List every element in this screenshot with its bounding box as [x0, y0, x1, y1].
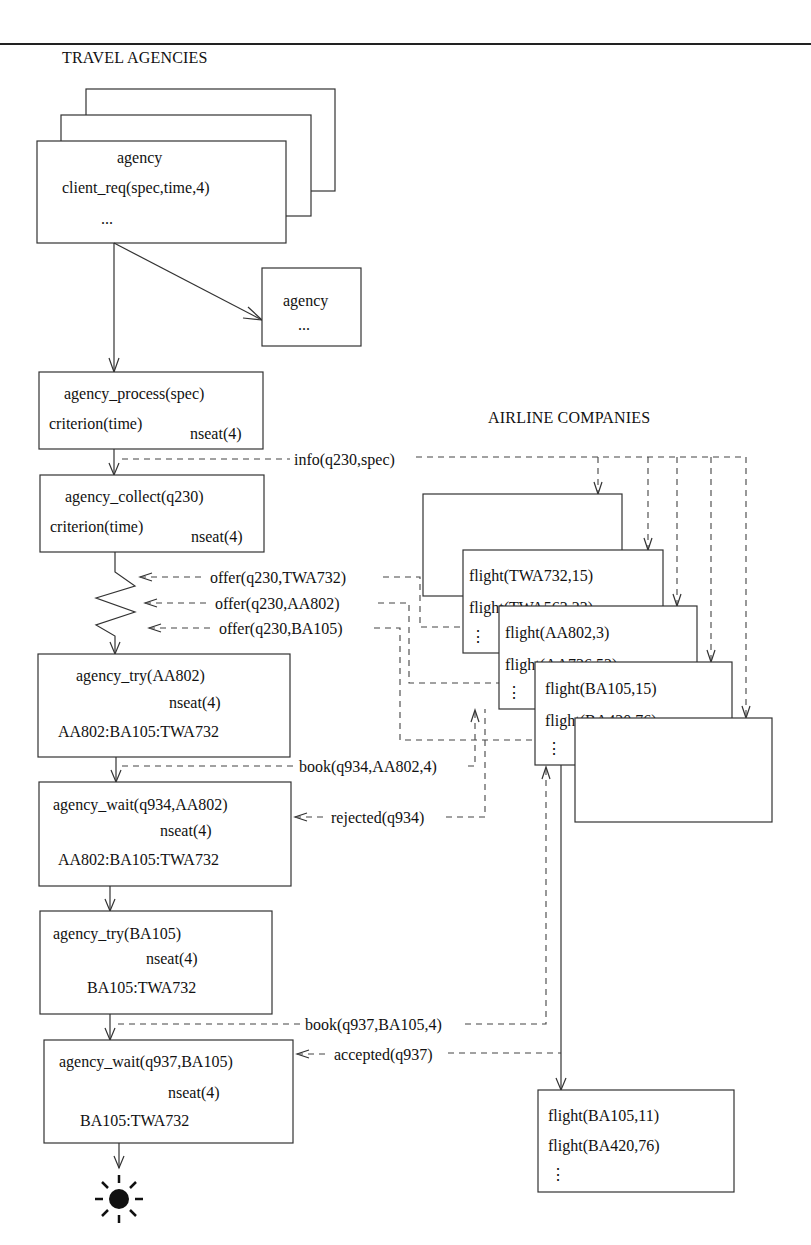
- state-nseat: nseat(4): [168, 1084, 220, 1102]
- state-agency-try-ba105: agency_try(BA105) nseat(4) BA105:TWA732: [40, 911, 272, 1014]
- state-nseat: nseat(4): [146, 950, 198, 968]
- book-ba-line-to-airline: [465, 767, 546, 1024]
- agency-ellipsis: ...: [101, 210, 113, 227]
- state-flight-list: AA802:BA105:TWA732: [58, 851, 219, 868]
- msg-offer-ba: offer(q230,BA105): [219, 620, 343, 638]
- state-agency-collect: agency_collect(q230) criterion(time) nse…: [40, 475, 264, 552]
- state-nseat: nseat(4): [169, 694, 221, 712]
- flight-entry: flight(BA105,15): [545, 680, 657, 698]
- state-name: agency_try(AA802): [76, 667, 205, 685]
- state-nseat: nseat(4): [160, 822, 212, 840]
- state-criterion: criterion(time): [49, 415, 142, 433]
- msg-offer-twa: offer(q230,TWA732): [210, 569, 346, 587]
- book-aa-line-to-airline: [468, 710, 475, 766]
- flight-entry: flight(TWA732,15): [469, 567, 593, 585]
- airline-box-ba-after: flight(BA105,11) flight(BA420,76) ⋮: [538, 1090, 734, 1192]
- flight-ellipsis: ⋮: [506, 684, 522, 701]
- state-name: agency_try(BA105): [53, 925, 181, 943]
- state-agency-process: agency_process(spec) criterion(time) nse…: [39, 372, 263, 449]
- state-nseat: nseat(4): [191, 528, 243, 546]
- agency-stack: agency client_req(spec,time,4) ...: [37, 89, 335, 243]
- msg-book-aa: book(q934,AA802,4): [299, 758, 437, 776]
- msg-rejected: rejected(q934): [331, 809, 424, 827]
- flight-entry: flight(BA105,11): [548, 1107, 659, 1125]
- flight-ellipsis: ⋮: [550, 1166, 566, 1183]
- diagram-canvas: TRAVEL AGENCIES AIRLINE COMPANIES agency…: [0, 0, 811, 1245]
- state-agency-try-aa802: agency_try(AA802) nseat(4) AA802:BA105:T…: [38, 654, 290, 757]
- agency-title: agency: [117, 149, 162, 167]
- state-flight-list: AA802:BA105:TWA732: [58, 723, 219, 740]
- heading-airline-companies: AIRLINE COMPANIES: [488, 409, 650, 426]
- spawn-arrow-line: [114, 243, 262, 320]
- flight-entry: flight(BA420,76): [548, 1137, 660, 1155]
- flight-ellipsis: ⋮: [546, 740, 562, 757]
- state-flight-list: BA105:TWA732: [87, 979, 196, 996]
- flight-ellipsis: ⋮: [470, 628, 486, 645]
- agency-small: agency ...: [262, 268, 361, 346]
- agency-small-ellipsis: ...: [298, 316, 310, 333]
- airline-box-front-empty: [575, 718, 772, 822]
- state-agency-wait-q934: agency_wait(q934,AA802) nseat(4) AA802:B…: [39, 782, 291, 886]
- state-name: agency_process(spec): [64, 385, 204, 403]
- state-nseat: nseat(4): [190, 425, 242, 443]
- msg-accepted: accepted(q937): [334, 1046, 433, 1064]
- terminal-sun-icon: [95, 1175, 143, 1223]
- state-name: agency_wait(q937,BA105): [59, 1053, 233, 1071]
- flight-entry: flight(AA802,3): [505, 624, 609, 642]
- state-name: agency_wait(q934,AA802): [53, 796, 228, 814]
- airline-stack: flight(TWA732,15) flight(TWA563,23) ⋮ fl…: [423, 494, 772, 822]
- heading-travel-agencies: TRAVEL AGENCIES: [62, 49, 208, 66]
- state-criterion: criterion(time): [50, 518, 143, 536]
- agency-client-req: client_req(spec,time,4): [62, 179, 210, 197]
- rejected-line-from-airline: [446, 709, 485, 817]
- msg-offer-aa: offer(q230,AA802): [215, 595, 340, 613]
- arrow-head-icon: [243, 307, 262, 320]
- state-agency-wait-q937: agency_wait(q937,BA105) nseat(4) BA105:T…: [44, 1040, 293, 1143]
- agency-small-title: agency: [283, 292, 328, 310]
- state-flight-list: BA105:TWA732: [80, 1112, 189, 1129]
- waiting-zigzag: [96, 552, 135, 654]
- msg-info: info(q230,spec): [294, 451, 395, 469]
- state-name: agency_collect(q230): [65, 488, 204, 506]
- msg-book-ba: book(q937,BA105,4): [305, 1016, 442, 1034]
